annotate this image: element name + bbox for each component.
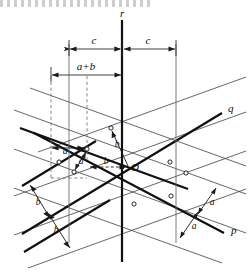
measure-arrow-a-lower-right-1: a xyxy=(198,188,216,214)
dimension-c-right: c xyxy=(124,34,176,56)
dimension-a-plus-b: a+b xyxy=(51,60,121,82)
measure-arrow-b-lower-left-2: b xyxy=(48,213,70,248)
dim-label-c-right: c xyxy=(146,34,151,46)
dim-arrowhead-left xyxy=(70,47,77,52)
net-line xyxy=(14,151,246,235)
axis-label-p: p xyxy=(230,224,237,236)
measure-arrow-a-lower-right-2: a xyxy=(180,212,198,238)
dim-arrowhead-right xyxy=(115,73,122,78)
lattice-node xyxy=(57,160,61,164)
origin-label: O xyxy=(131,161,139,173)
dimension-c-left: c xyxy=(69,34,122,56)
measure-label-b: b xyxy=(54,225,59,235)
measure-label-b: b xyxy=(115,139,120,149)
lattice-node xyxy=(72,170,76,174)
measure-label-b: b xyxy=(36,197,41,207)
axis-label-q: q xyxy=(228,102,234,114)
lattice-lines-family-up-right xyxy=(14,77,246,268)
measure-label-b: b xyxy=(104,156,109,166)
net-line xyxy=(14,110,246,194)
lattice-node xyxy=(184,171,188,175)
lattice-diagram-svg: c c a+b a xyxy=(0,0,250,277)
dim-arrowhead-right xyxy=(115,47,122,52)
dim-arrowhead-left xyxy=(52,73,59,78)
lattice-node xyxy=(168,160,172,164)
dim-label-c-left: c xyxy=(92,34,97,46)
origin-marker xyxy=(120,165,125,170)
net-line xyxy=(14,149,246,233)
measure-arrow-b-lower-left-1: b xyxy=(30,185,50,218)
measure-label-a: a xyxy=(192,221,197,231)
measure-arrow-b-upper-center: b xyxy=(112,131,128,166)
measure-label-a: a xyxy=(63,146,68,156)
measure-label-a: a xyxy=(79,156,84,166)
lattice-figure: c c a+b a xyxy=(0,0,250,277)
dim-label-a-plus-b: a+b xyxy=(77,60,96,72)
lattice-node xyxy=(109,126,113,130)
axis-label-r: r xyxy=(120,7,125,19)
dim-arrowhead-right xyxy=(169,47,176,52)
measure-arrowhead xyxy=(112,131,117,138)
lattice-node xyxy=(132,202,136,206)
dim-arrowhead-left xyxy=(124,47,131,52)
measure-label-a: a xyxy=(210,197,215,207)
lattice-node xyxy=(169,194,173,198)
lattice-node xyxy=(85,147,89,151)
